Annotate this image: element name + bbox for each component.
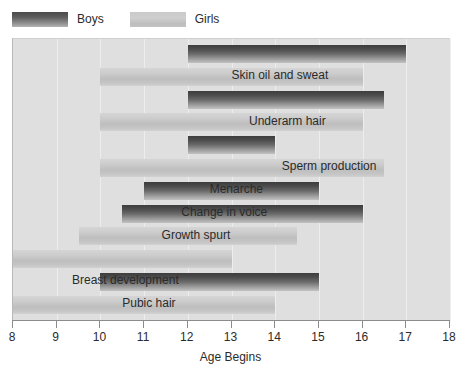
x-axis: 89101112131415161718 xyxy=(12,320,449,334)
bar-label: Change in voice xyxy=(181,206,267,218)
axis-tick xyxy=(56,320,57,328)
range-bar xyxy=(188,91,385,109)
bar-label: Growth spurt xyxy=(162,229,231,241)
axis-tick-label: 13 xyxy=(224,330,237,344)
plot-area: Skin oil and sweatUnderarm hairSperm pro… xyxy=(12,38,450,321)
chart-legend: Boys Girls xyxy=(12,8,245,30)
axis-tick-label: 14 xyxy=(268,330,281,344)
axis-tick-label: 16 xyxy=(355,330,368,344)
bar-label: Breast development xyxy=(72,274,179,286)
legend-swatch-boys-icon xyxy=(12,12,68,27)
gridline xyxy=(450,39,451,321)
bar-label: Menarche xyxy=(210,183,263,195)
legend-entry-girls: Girls xyxy=(130,12,246,27)
bar-label: Skin oil and sweat xyxy=(232,69,329,81)
axis-tick xyxy=(99,320,100,328)
axis-tick-label: 18 xyxy=(442,330,455,344)
range-bar xyxy=(188,45,407,63)
axis-tick xyxy=(274,320,275,328)
axis-tick-label: 10 xyxy=(93,330,106,344)
axis-tick xyxy=(449,320,450,328)
puberty-timeline-chart: Boys Girls Skin oil and sweatUnderarm ha… xyxy=(0,0,471,373)
axis-tick xyxy=(231,320,232,328)
axis-tick xyxy=(143,320,144,328)
axis-tick-label: 8 xyxy=(9,330,16,344)
range-bar xyxy=(13,250,232,268)
axis-tick xyxy=(318,320,319,328)
axis-tick xyxy=(12,320,13,328)
axis-tick-label: 9 xyxy=(52,330,59,344)
range-bar xyxy=(188,136,275,154)
axis-tick xyxy=(362,320,363,328)
bar-label: Sperm production xyxy=(282,160,377,172)
bar-label: Underarm hair xyxy=(249,115,326,127)
legend-swatch-girls-icon xyxy=(130,12,186,27)
axis-tick-label: 17 xyxy=(399,330,412,344)
axis-tick-label: 15 xyxy=(311,330,324,344)
axis-tick-label: 11 xyxy=(137,330,149,344)
bars-layer: Skin oil and sweatUnderarm hairSperm pro… xyxy=(13,39,450,321)
axis-tick xyxy=(187,320,188,328)
axis-tick xyxy=(405,320,406,328)
x-axis-title: Age Begins xyxy=(12,350,449,364)
axis-tick-label: 12 xyxy=(180,330,193,344)
bar-label: Pubic hair xyxy=(122,297,175,309)
legend-entry-boys: Boys xyxy=(12,12,130,27)
legend-label-girls: Girls xyxy=(195,12,220,26)
legend-label-boys: Boys xyxy=(77,12,104,26)
